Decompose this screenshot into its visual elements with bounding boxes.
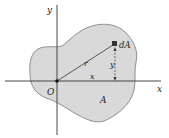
area-label: A — [99, 95, 107, 105]
diagram-canvas: y x O r x y dA A — [0, 0, 169, 138]
region-a — [30, 24, 137, 122]
x-axis-label: x — [157, 84, 162, 94]
y-distance-label: y — [109, 60, 115, 69]
origin-point — [55, 79, 59, 83]
y-axis-label: y — [46, 5, 53, 15]
area-element-da — [112, 41, 117, 46]
element-label: dA — [119, 40, 131, 50]
x-distance-label: x — [90, 72, 95, 81]
origin-label: O — [47, 87, 55, 97]
